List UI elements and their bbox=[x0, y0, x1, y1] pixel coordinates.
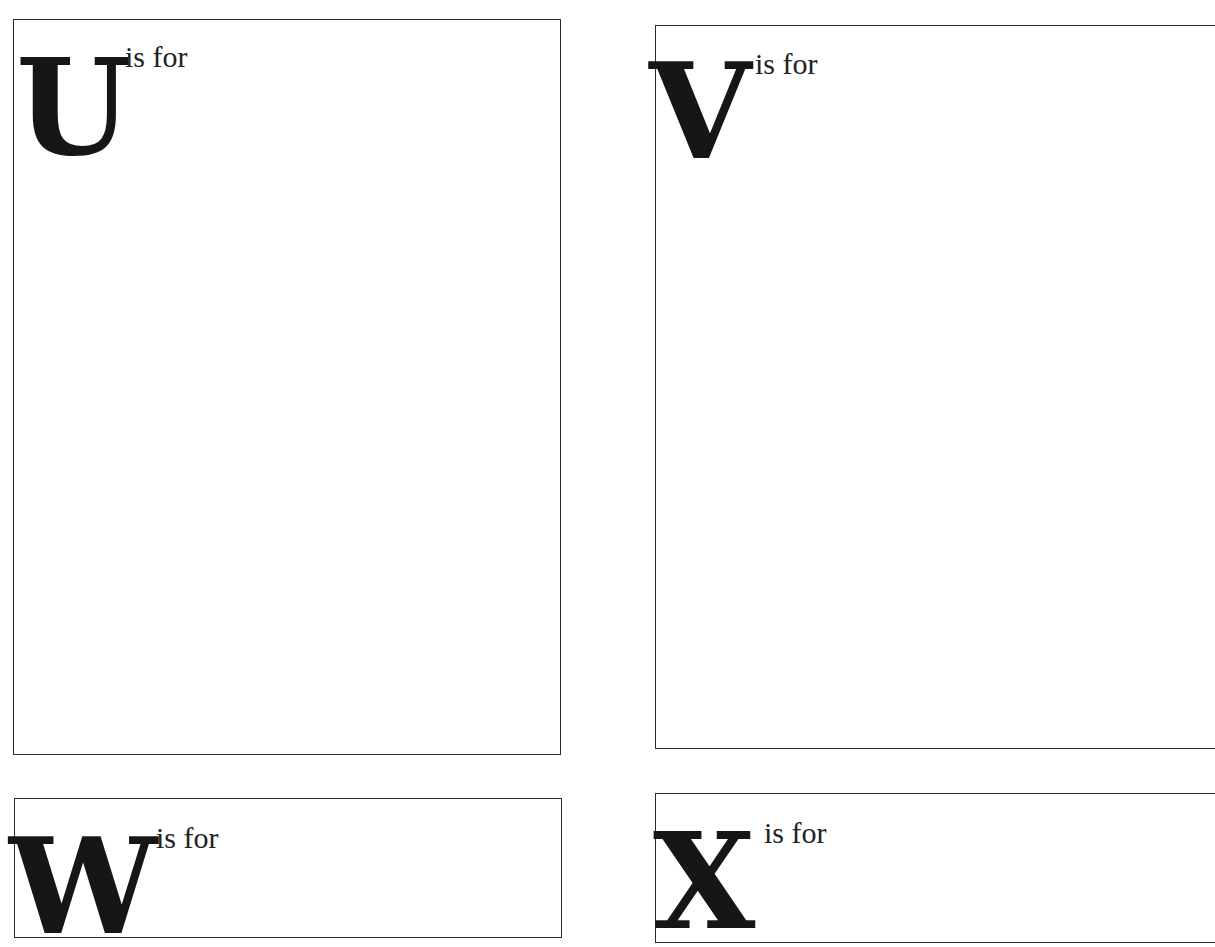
big-letter-u: U bbox=[16, 42, 129, 174]
letter-card-w: W is for bbox=[14, 798, 562, 938]
big-letter-w: W bbox=[9, 821, 155, 947]
caption-x: is for bbox=[764, 818, 827, 848]
caption-w: is for bbox=[156, 823, 219, 853]
letter-card-u: U is for bbox=[13, 19, 561, 755]
big-letter-x: X bbox=[653, 816, 753, 947]
big-letter-v: V bbox=[649, 46, 749, 178]
letter-card-x: X is for bbox=[655, 793, 1215, 943]
letter-card-v: V is for bbox=[655, 25, 1215, 749]
caption-u: is for bbox=[125, 42, 188, 72]
caption-v: is for bbox=[755, 49, 818, 79]
